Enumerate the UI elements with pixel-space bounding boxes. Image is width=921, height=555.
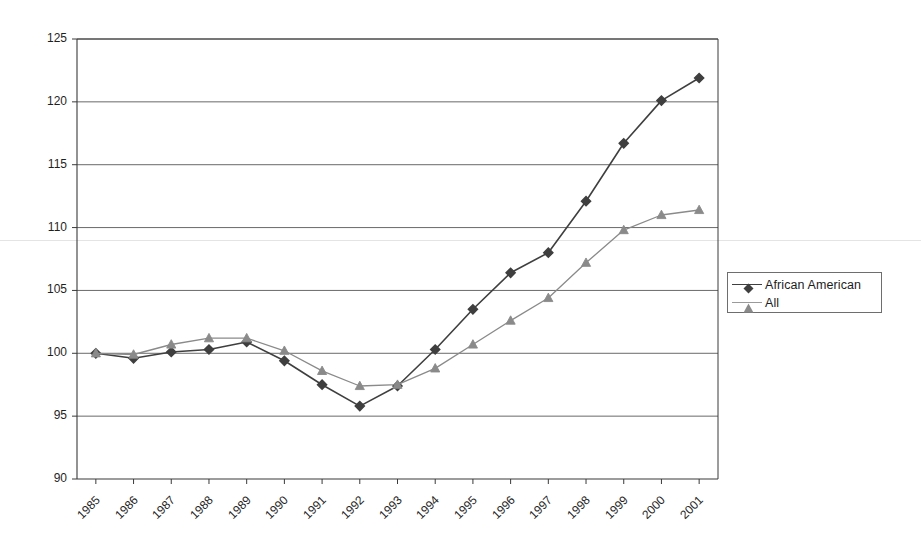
data-point-marker	[318, 366, 327, 374]
y-axis-tick-label: 110	[33, 220, 67, 234]
data-point-marker	[167, 347, 176, 356]
chart-legend: African American All	[727, 272, 882, 313]
y-axis-tick-label: 120	[33, 94, 67, 108]
series-line	[96, 210, 699, 386]
line-chart: 9095100105110115120125198519861987198819…	[0, 0, 921, 555]
data-point-marker	[468, 340, 477, 348]
y-axis-tick-label: 105	[33, 282, 67, 296]
legend-label-all: All	[762, 296, 779, 310]
legend-item-african-american[interactable]: African American	[732, 276, 876, 294]
data-point-marker	[317, 380, 326, 389]
y-axis-tick-label: 100	[33, 345, 67, 359]
y-axis-tick-label: 125	[33, 31, 67, 45]
series-line	[96, 78, 699, 406]
y-axis-tick-label: 95	[33, 408, 67, 422]
diamond-marker-icon	[732, 278, 762, 292]
data-point-marker	[204, 345, 213, 354]
data-point-marker	[506, 316, 515, 324]
data-point-marker	[355, 401, 364, 410]
y-axis-tick-label: 115	[33, 157, 67, 171]
data-point-marker	[695, 73, 704, 82]
legend-label-african-american: African American	[762, 278, 861, 292]
legend-item-all[interactable]: All	[732, 294, 876, 312]
y-axis-tick-label: 90	[33, 471, 67, 485]
triangle-marker-icon	[732, 296, 762, 310]
data-point-marker	[280, 356, 289, 365]
data-point-marker	[431, 364, 440, 372]
data-point-marker	[695, 205, 704, 213]
